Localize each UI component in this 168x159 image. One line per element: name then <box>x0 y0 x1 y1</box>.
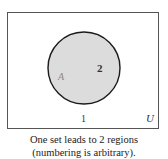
caption-line-2: (numbering is arbitrary). <box>0 147 168 159</box>
caption-line-1: One set leads to 2 regions <box>0 134 168 146</box>
region-1-label: 1 <box>81 113 86 124</box>
set-a-circle <box>48 32 120 104</box>
universe-label: U <box>146 112 155 124</box>
set-a-label: A <box>57 71 65 82</box>
region-2-label: 2 <box>97 62 103 74</box>
venn-diagram: A 2 1 U <box>0 0 168 132</box>
